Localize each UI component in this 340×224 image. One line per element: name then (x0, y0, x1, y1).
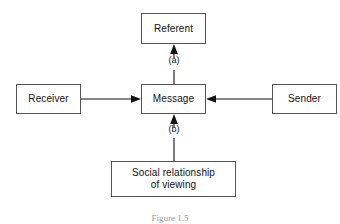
node-sender-label: Sender (288, 93, 321, 105)
edge-label-b: (b) (163, 124, 185, 134)
edge-label-a: (a) (163, 55, 185, 65)
node-referent-label: Referent (154, 23, 193, 35)
node-receiver-label: Receiver (28, 93, 68, 105)
node-receiver[interactable]: Receiver (16, 84, 81, 114)
arrowhead-up-referent (170, 44, 178, 54)
node-sender[interactable]: Sender (272, 84, 337, 114)
node-message[interactable]: Message (141, 84, 206, 114)
arrowhead-right-message (131, 95, 141, 103)
node-social-relationship-label: Social relationship of viewing (132, 167, 215, 191)
arrowhead-up-message (170, 114, 178, 124)
arrowhead-left-message (206, 95, 216, 103)
node-referent[interactable]: Referent (141, 13, 206, 44)
figure-caption: Figure 1.5 (0, 213, 340, 223)
node-social-relationship[interactable]: Social relationship of viewing (111, 161, 236, 197)
node-message-label: Message (153, 93, 194, 105)
figure-diagram: Referent Receiver Message Sender Social … (0, 0, 340, 224)
